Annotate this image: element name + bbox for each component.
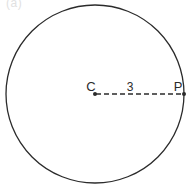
diagram-canvas: C P 3 [0, 0, 191, 187]
geometry-figure: (a) C P 3 [0, 0, 191, 187]
circle-point-dot [182, 92, 186, 96]
radius-measure-label: 3 [127, 80, 134, 94]
center-point-label: C [86, 79, 95, 94]
circle-point-label: P [174, 79, 183, 94]
